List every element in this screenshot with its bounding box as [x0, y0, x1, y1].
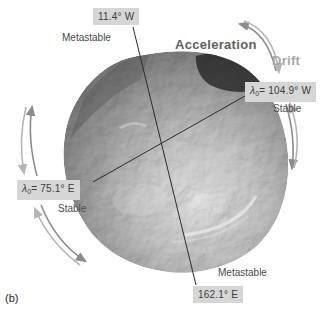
- acceleration-label: Acceleration: [175, 37, 257, 52]
- stability-label-top: Metastable: [62, 32, 111, 43]
- stability-label-left: Stable: [58, 203, 86, 214]
- figure-graphic: [0, 0, 324, 315]
- libration-arrow-left-upper-icon: [21, 107, 37, 176]
- stability-label-bottom: Metastable: [218, 267, 267, 278]
- longitude-label-left: λ0= 75.1° E: [17, 180, 80, 200]
- libration-arrow-left-lower-icon: [35, 205, 85, 265]
- longitude-label-right: λ0= 104.9° W: [245, 82, 316, 102]
- stability-label-right: Stable: [273, 103, 301, 114]
- figure-panel-b: 11.4° W Metastable Acceleration Drift λ0…: [0, 0, 324, 315]
- longitude-label-bottom: 162.1° E: [193, 286, 243, 303]
- panel-letter: (b): [5, 292, 18, 304]
- drift-label: Drift: [272, 53, 300, 68]
- longitude-label-top: 11.4° W: [93, 8, 139, 25]
